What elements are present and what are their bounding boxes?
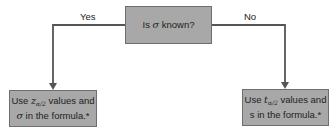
yes-connector bbox=[53, 25, 125, 84]
no-outcome-box: Use tα/2 values and s in the formula.* bbox=[242, 89, 329, 126]
no-outcome-text: Use tα/2 values and s in the formula.* bbox=[245, 94, 327, 121]
decision-text: Is σ known? bbox=[143, 19, 195, 31]
no-connector bbox=[212, 25, 285, 83]
yes-outcome-text: Use zα/2 values and σ in the formula.* bbox=[11, 95, 94, 122]
no-label: No bbox=[244, 11, 256, 22]
yes-arrowhead-icon bbox=[49, 83, 57, 90]
yes-label: Yes bbox=[80, 11, 96, 22]
decision-box: Is σ known? bbox=[125, 6, 212, 44]
no-arrowhead-icon bbox=[281, 82, 289, 89]
yes-outcome-box: Use zα/2 values and σ in the formula.* bbox=[9, 90, 97, 127]
